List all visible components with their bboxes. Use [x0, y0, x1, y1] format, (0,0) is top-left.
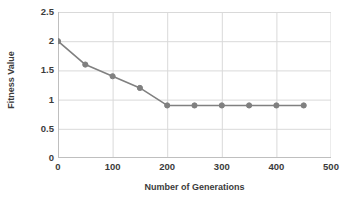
data-point-marker: [274, 103, 279, 108]
data-point-marker: [83, 62, 88, 67]
data-point-marker: [219, 103, 224, 108]
data-point-marker: [58, 39, 61, 44]
x-tick-label: 400: [256, 162, 296, 172]
x-tick-label: 0: [38, 162, 78, 172]
fitness-value-line-chart: Fitness Value 00.511.522.5 0100200300400…: [0, 0, 358, 205]
data-point-marker: [301, 103, 306, 108]
x-axis-title: Number of Generations: [58, 182, 331, 192]
x-tick-label: 100: [93, 162, 133, 172]
data-point-marker: [165, 103, 170, 108]
data-point-marker: [192, 103, 197, 108]
x-tick-label: 300: [202, 162, 242, 172]
data-series-line: [58, 41, 304, 105]
data-point-marker: [247, 103, 252, 108]
plot-svg: [58, 12, 331, 158]
x-tick-label: 500: [311, 162, 351, 172]
data-point-marker: [137, 85, 142, 90]
plot-area: [58, 12, 331, 158]
x-tick-label: 200: [147, 162, 187, 172]
data-point-marker: [110, 74, 115, 79]
